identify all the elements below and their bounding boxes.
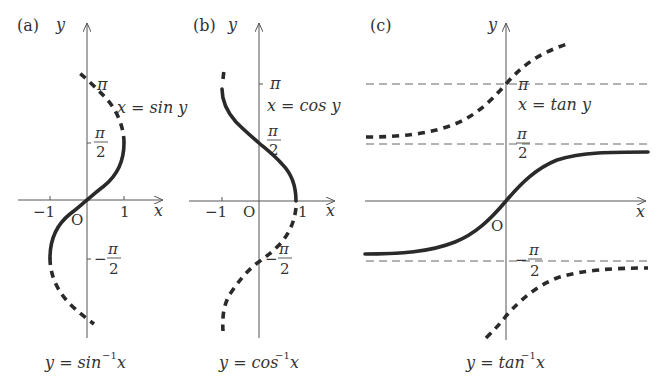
caption-main: y = sin xyxy=(44,353,101,372)
tick-label-neg-sign: − xyxy=(94,250,107,268)
panel-a: (a) y x −1 1 O π π 2 − π 2 x = sin y y =… xyxy=(17,15,188,372)
y-axis-label: y xyxy=(55,15,66,34)
tick-label-neg-half-pi-num: π xyxy=(107,240,119,258)
panel-c: (c) y x O π π 2 − π 2 x = tan y y = tan … xyxy=(365,15,650,372)
panel-label: (b) xyxy=(193,16,216,35)
y-axis-label: y xyxy=(487,15,498,34)
tan-curve-extension-upper xyxy=(366,44,567,137)
caption-superscript: −1 xyxy=(275,350,290,361)
y-axis-label: y xyxy=(227,15,238,34)
tick-label-pi: π xyxy=(517,75,529,94)
tick-label-half-pi-num: π xyxy=(94,124,106,142)
tick-label-half-pi-den: 2 xyxy=(518,144,528,162)
curve-label: x = sin y xyxy=(117,98,188,117)
tick-label-neg1: −1 xyxy=(33,203,55,221)
inverse-trig-figure: (a) y x −1 1 O π π 2 − π 2 x = sin y y =… xyxy=(0,0,666,389)
x-axis-label: x xyxy=(636,202,645,221)
caption-var: x xyxy=(536,353,545,372)
tick-label-pi: π xyxy=(269,74,281,93)
caption-superscript: −1 xyxy=(521,350,536,361)
caption-var: x xyxy=(117,353,126,372)
x-axis-label: x xyxy=(326,201,335,220)
origin-label: O xyxy=(243,203,255,221)
tick-label-neg-half-pi-den: 2 xyxy=(109,260,119,278)
tick-label-neg-half-pi-den: 2 xyxy=(530,262,540,280)
tick-label-pi: π xyxy=(96,75,108,94)
caption-var: x xyxy=(290,353,299,372)
panel-label: (a) xyxy=(17,16,39,35)
curve-label: x = cos y xyxy=(267,96,341,115)
tick-label-neg-half-pi-den: 2 xyxy=(280,260,290,278)
caption-main: y = tan xyxy=(465,353,525,372)
curve-label: x = tan y xyxy=(518,95,592,114)
tick-label-neg1: −1 xyxy=(205,203,227,221)
cos-curve-extension-upper xyxy=(223,70,224,79)
tick-label-neg-half-pi-num: π xyxy=(528,241,540,259)
caption-superscript: −1 xyxy=(102,350,117,361)
panel-b: (b) y x −1 1 O π π 2 − π 2 x = cos y y =… xyxy=(189,15,341,372)
tick-label-half-pi-den: 2 xyxy=(96,143,106,161)
caption-main: y = cos xyxy=(218,353,278,372)
tick-label-neg-sign: − xyxy=(515,251,528,269)
tick-label-half-pi-num: π xyxy=(267,122,279,140)
origin-label: O xyxy=(491,217,503,235)
tick-label-1: 1 xyxy=(298,203,308,221)
tick-label-1: 1 xyxy=(120,203,130,221)
panel-label: (c) xyxy=(370,16,391,35)
tan-curve-extension-lower xyxy=(486,268,648,338)
tick-label-half-pi-num: π xyxy=(516,125,528,143)
x-axis-label: x xyxy=(154,201,163,220)
